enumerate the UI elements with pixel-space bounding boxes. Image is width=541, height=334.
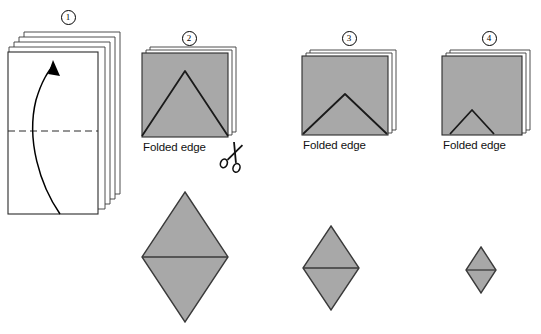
- step-number-3-label: 3: [342, 31, 357, 46]
- folded-paper-2: [142, 53, 228, 137]
- result-diamond-large: [142, 192, 228, 322]
- step-number-2-label: 2: [182, 31, 197, 46]
- step-4-group: [442, 50, 530, 135]
- step-2-group: [142, 47, 236, 137]
- folded-edge-caption-2: Folded edge: [143, 141, 206, 153]
- step-number-2: 2: [178, 30, 200, 46]
- step-number-1-label: 1: [61, 10, 76, 25]
- step-number-4: 4: [478, 30, 500, 46]
- step-1-group: [8, 32, 120, 214]
- result-diamond-medium: [303, 226, 359, 310]
- step-number-3: 3: [338, 30, 360, 46]
- front-sheet: [8, 52, 98, 214]
- folded-edge-caption-3: Folded edge: [303, 139, 366, 151]
- step-3-group: [302, 50, 396, 135]
- scissors-icon: [219, 140, 248, 173]
- folded-edge-caption-4: Folded edge: [443, 139, 506, 151]
- step-number-4-label: 4: [482, 31, 497, 46]
- result-diamond-small: [466, 247, 496, 293]
- folding-diagram: [0, 0, 541, 334]
- folded-paper-4: [442, 56, 522, 135]
- step-number-1: 1: [57, 9, 79, 25]
